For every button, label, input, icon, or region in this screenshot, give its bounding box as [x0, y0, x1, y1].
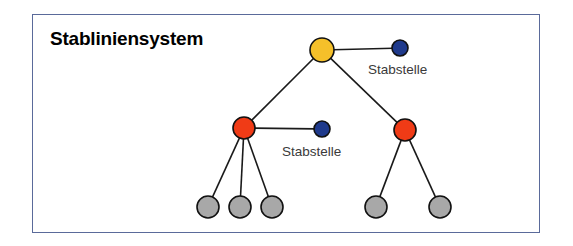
- org-chart-graphic: [0, 0, 573, 246]
- edge-root-to-line-left: [251, 58, 314, 121]
- node-root: [310, 38, 334, 62]
- node-leaf-1: [197, 196, 219, 218]
- node-line-right: [394, 119, 416, 141]
- stabstelle-label-middle: Stabstelle: [282, 144, 341, 159]
- stabstelle-label-top: Stabstelle: [368, 62, 427, 77]
- node-staff-top: [392, 40, 408, 56]
- diagram-canvas: Stabliniensystem Stabstelle Stabstelle: [0, 0, 573, 246]
- edge-line-left-to-staff-mid: [254, 128, 315, 129]
- edge-line-right-to-leaf-4: [380, 139, 402, 197]
- node-line-left: [233, 117, 255, 139]
- node-leaf-4: [365, 196, 387, 218]
- edge-line-left-to-leaf-1: [212, 137, 240, 198]
- node-leaf-2: [229, 196, 251, 218]
- edge-root-to-staff-top: [333, 48, 393, 50]
- edge-line-left-to-leaf-2: [241, 138, 244, 197]
- node-leaf-5: [429, 196, 451, 218]
- node-leaf-3: [261, 196, 283, 218]
- edge-line-left-to-leaf-3: [247, 137, 268, 197]
- edge-line-right-to-leaf-5: [409, 139, 436, 198]
- node-staff-mid: [314, 121, 330, 137]
